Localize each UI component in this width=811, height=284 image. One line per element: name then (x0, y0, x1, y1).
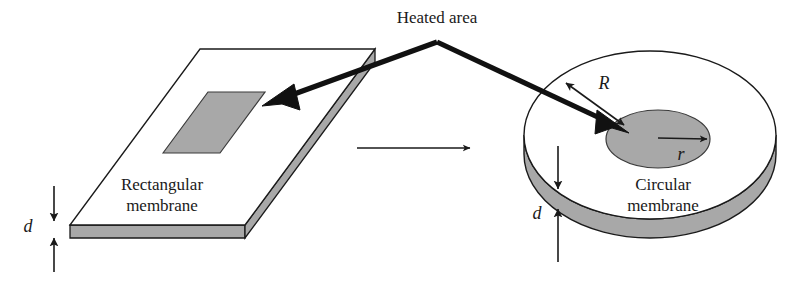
left-thickness-label: d (24, 216, 34, 236)
figure-container: Rectangular membrane d R r (0, 0, 811, 284)
membrane-comparison-diagram: Rectangular membrane d R r (0, 0, 811, 284)
rectangular-membrane-label-line2: membrane (126, 196, 198, 215)
heated-area-label: Heated area (397, 8, 478, 27)
circular-membrane-label-line2: membrane (627, 196, 699, 215)
circular-membrane-label-line1: Circular (635, 175, 691, 194)
left-thickness-dimension: d (24, 186, 55, 272)
slab-front-edge (70, 225, 245, 238)
inner-radius-label: r (677, 144, 685, 164)
inner-radius-arrow (658, 138, 707, 139)
circular-membrane-group: R r Circular membrane (524, 51, 776, 238)
right-thickness-label: d (533, 203, 543, 223)
outer-radius-label: R (598, 73, 610, 93)
rectangular-membrane-label-line1: Rectangular (121, 175, 203, 194)
rectangular-membrane-group: Rectangular membrane (70, 49, 375, 238)
